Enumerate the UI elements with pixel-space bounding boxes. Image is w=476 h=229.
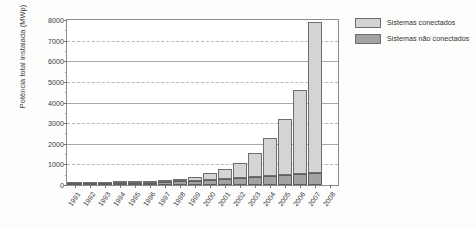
y-tick-label: 5000 bbox=[48, 77, 64, 86]
bar-segment-connected bbox=[293, 90, 307, 175]
legend-label-connected: Sistemas conectados bbox=[387, 18, 455, 27]
bar-2006 bbox=[293, 90, 307, 185]
bar-segment-connected bbox=[263, 138, 277, 176]
y-tick-label: 1000 bbox=[48, 160, 64, 169]
x-tick-mark bbox=[330, 185, 331, 188]
y-tick-mark-minor bbox=[65, 72, 67, 73]
bar-segment-offgrid bbox=[233, 178, 247, 185]
bar-2000 bbox=[203, 173, 217, 185]
x-tick-mark bbox=[120, 185, 121, 188]
x-tick-mark bbox=[255, 185, 256, 188]
x-tick-mark bbox=[135, 185, 136, 188]
bar-segment-offgrid bbox=[263, 176, 277, 185]
x-tick-mark bbox=[225, 185, 226, 188]
bar-segment-connected bbox=[248, 153, 262, 177]
x-tick-mark bbox=[270, 185, 271, 188]
y-tick-label: 4000 bbox=[48, 98, 64, 107]
legend-item-offgrid: Sistemas não conectados bbox=[355, 33, 476, 44]
x-tick-mark bbox=[75, 185, 76, 188]
chart-legend: Sistemas conectados Sistemas não conecta… bbox=[355, 17, 476, 49]
y-tick-label: 6000 bbox=[48, 57, 64, 66]
chart-figure: Potência total instalada (MWp) 010002000… bbox=[0, 0, 476, 229]
bar-2003 bbox=[248, 153, 262, 185]
legend-label-offgrid: Sistemas não conectados bbox=[387, 34, 469, 43]
bar-segment-offgrid bbox=[248, 177, 262, 185]
y-tick-label: 0 bbox=[60, 181, 64, 190]
gridline bbox=[67, 82, 338, 83]
y-axis-title: Potência total instalada (MWp) bbox=[18, 0, 27, 137]
bar-segment-connected bbox=[308, 22, 322, 173]
legend-item-connected: Sistemas conectados bbox=[355, 17, 476, 28]
y-tick-mark bbox=[64, 185, 67, 186]
y-tick-label: 8000 bbox=[48, 16, 64, 25]
plot-area: 010002000300040005000600070008000 199119… bbox=[66, 19, 339, 186]
bar-segment-offgrid bbox=[308, 173, 322, 185]
bar-segment-connected bbox=[233, 163, 247, 179]
y-tick-mark-minor bbox=[65, 113, 67, 114]
x-tick-mark bbox=[150, 185, 151, 188]
bar-segment-connected bbox=[278, 119, 292, 175]
gridline bbox=[67, 41, 338, 42]
bar-2001 bbox=[218, 169, 232, 185]
x-tick-mark bbox=[105, 185, 106, 188]
y-tick-mark-minor bbox=[65, 30, 67, 31]
y-tick-mark-minor bbox=[65, 51, 67, 52]
gridline bbox=[67, 61, 338, 62]
bar-2007 bbox=[308, 22, 322, 185]
x-tick-mark bbox=[300, 185, 301, 188]
y-tick-label: 7000 bbox=[48, 36, 64, 45]
y-tick-mark-minor bbox=[65, 133, 67, 134]
x-tick-mark bbox=[240, 185, 241, 188]
y-tick-mark bbox=[64, 61, 67, 62]
y-tick-mark-minor bbox=[65, 154, 67, 155]
x-tick-mark bbox=[285, 185, 286, 188]
bar-segment-offgrid bbox=[278, 175, 292, 185]
x-tick-mark bbox=[180, 185, 181, 188]
bar-segment-connected bbox=[218, 169, 232, 179]
x-tick-mark bbox=[195, 185, 196, 188]
x-tick-mark bbox=[165, 185, 166, 188]
y-tick-mark-minor bbox=[65, 92, 67, 93]
y-tick-mark bbox=[64, 103, 67, 104]
bar-segment-connected bbox=[203, 173, 217, 180]
bar-segment-offgrid bbox=[293, 174, 307, 185]
y-tick-mark bbox=[64, 123, 67, 124]
legend-swatch-connected-icon bbox=[355, 18, 381, 28]
bar-2004 bbox=[263, 138, 277, 185]
legend-swatch-offgrid-icon bbox=[355, 34, 381, 44]
y-tick-mark bbox=[64, 144, 67, 145]
bar-2002 bbox=[233, 163, 247, 185]
x-tick-mark bbox=[315, 185, 316, 188]
y-tick-mark bbox=[64, 41, 67, 42]
y-tick-label: 3000 bbox=[48, 119, 64, 128]
y-tick-mark bbox=[64, 164, 67, 165]
y-tick-mark-minor bbox=[65, 175, 67, 176]
bar-2005 bbox=[278, 119, 292, 185]
y-tick-mark bbox=[64, 82, 67, 83]
y-tick-mark bbox=[64, 20, 67, 21]
x-tick-mark bbox=[210, 185, 211, 188]
x-tick-mark bbox=[90, 185, 91, 188]
bar-1999 bbox=[188, 177, 202, 185]
y-tick-label: 2000 bbox=[48, 139, 64, 148]
